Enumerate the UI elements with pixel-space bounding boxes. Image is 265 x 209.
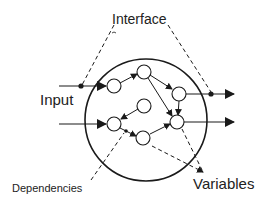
dependency-marker-dot — [124, 129, 128, 133]
edge-b-g — [148, 78, 172, 116]
variable-node-e — [107, 117, 121, 131]
edge-c-g — [178, 101, 179, 115]
interface-pointer-left — [82, 25, 114, 85]
dependencies-label: Dependencies — [12, 183, 82, 194]
interface-tick-mark — [112, 32, 116, 33]
edge-a-b — [120, 74, 137, 83]
variable-node-b — [137, 65, 151, 79]
input-label: Input — [40, 92, 73, 107]
variables-label: Variables — [193, 176, 254, 191]
interface-label: Interface — [112, 12, 166, 26]
dependencies-pointer — [91, 133, 124, 180]
variable-node-f — [136, 131, 150, 145]
edge-d-e — [121, 109, 138, 119]
variable-node-g — [170, 115, 184, 129]
variable-node-d — [137, 99, 151, 113]
interface-port-dot-input — [78, 83, 83, 88]
variable-node-a — [107, 79, 121, 93]
variables-pointer-right — [182, 129, 203, 172]
variable-node-c — [172, 87, 186, 101]
interface-pointer-right — [168, 25, 211, 92]
edge-f-g — [150, 124, 170, 134]
interface-port-dot-output — [208, 91, 213, 96]
variables-pointer-left — [152, 146, 203, 172]
edge-e-f — [120, 128, 136, 136]
